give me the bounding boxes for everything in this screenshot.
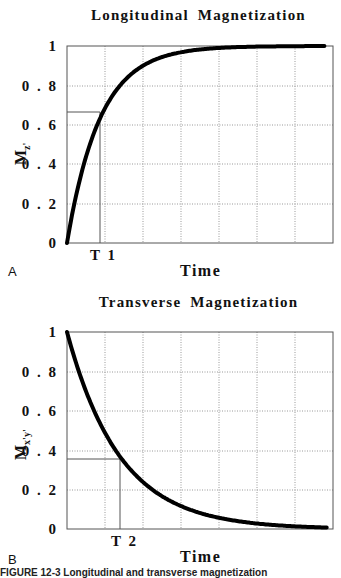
xlabel-time-b: Time — [180, 548, 221, 566]
panel-label-a: A — [8, 264, 17, 279]
ytick-a-0.6: 0 . 6 — [6, 117, 58, 133]
figure-caption: FIGURE 12-3 Longitudinal and transverse … — [0, 567, 267, 578]
ytick-a-0: 0 — [6, 235, 58, 251]
t1-label: T 1 — [90, 247, 117, 264]
t2-marker-lines — [67, 459, 120, 529]
ytick-b-0.2: 0 . 2 — [6, 482, 58, 498]
grid-a — [67, 46, 333, 243]
xlabel-time-a: Time — [180, 262, 221, 280]
ytick-b-0.6: 0 . 6 — [6, 403, 58, 419]
ylabel-mz: Mz' — [12, 143, 32, 165]
ytick-b-1: 1 — [6, 324, 58, 340]
t2-label: T 2 — [111, 533, 138, 550]
ytick-b-0: 0 — [6, 521, 58, 537]
panel-label-b: B — [8, 552, 17, 567]
ytick-a-0.8: 0 . 8 — [6, 78, 58, 94]
plot-frame-b — [67, 332, 333, 529]
chart-title-transverse: Transverse Magnetization — [28, 294, 341, 311]
ytick-a-1: 1 — [6, 38, 58, 54]
ytick-a-0.2: 0 . 2 — [6, 196, 58, 212]
grid-b — [67, 332, 333, 529]
plot-frame-a — [67, 46, 333, 243]
curve-transverse — [67, 332, 327, 528]
ylabel-mxy: Mx'y' — [12, 429, 32, 460]
ytick-b-0.8: 0 . 8 — [6, 364, 58, 380]
curve-longitudinal — [67, 46, 324, 243]
